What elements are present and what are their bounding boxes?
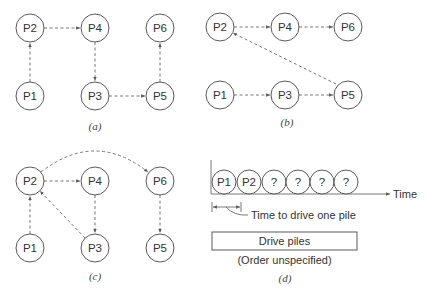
node-p1: P1 <box>16 82 44 110</box>
node-p1: P1 <box>206 81 234 109</box>
activity-box-label: Drive piles <box>259 235 311 247</box>
svg-text:P3: P3 <box>278 89 292 101</box>
svg-text:P2: P2 <box>23 175 37 187</box>
time-axis-label: Time <box>393 188 417 200</box>
svg-text:P6: P6 <box>153 22 167 34</box>
svg-text:P3: P3 <box>88 90 102 102</box>
svg-text:?: ? <box>295 176 301 188</box>
svg-text:P5: P5 <box>153 90 167 102</box>
node-p2: P2 <box>206 13 234 41</box>
svg-text:P4: P4 <box>88 175 103 187</box>
node-p3: P3 <box>81 234 109 262</box>
svg-text:P4: P4 <box>278 21 293 33</box>
svg-text:?: ? <box>271 176 277 188</box>
svg-text:?: ? <box>319 176 325 188</box>
node-p3: P3 <box>271 81 299 109</box>
node-p6: P6 <box>146 167 174 195</box>
caption-b: (b) <box>281 116 294 129</box>
node-p1: P1 <box>16 234 44 262</box>
panel-c: P2 P4 P6 P1 P3 P5 (c) <box>16 151 174 283</box>
caption-d: (d) <box>279 272 292 285</box>
svg-text:P2: P2 <box>213 21 227 33</box>
node-p4: P4 <box>271 13 299 41</box>
pile-slot-1: P1 <box>212 170 236 194</box>
node-p4: P4 <box>81 167 109 195</box>
pile-slot-3: ? <box>262 170 286 194</box>
panel-a: P2 P4 P6 P1 P3 P5 (a) <box>16 14 174 133</box>
svg-text:P5: P5 <box>341 89 355 101</box>
node-p6: P6 <box>334 13 362 41</box>
node-p5: P5 <box>334 81 362 109</box>
pile-slot-5: ? <box>310 170 334 194</box>
node-p3: P3 <box>81 82 109 110</box>
svg-text:?: ? <box>343 176 349 188</box>
pile-slot-4: ? <box>286 170 310 194</box>
pile-slot-6: ? <box>334 170 358 194</box>
svg-text:P1: P1 <box>23 242 37 254</box>
svg-text:P3: P3 <box>88 242 102 254</box>
svg-text:P5: P5 <box>153 242 167 254</box>
svg-text:P2: P2 <box>242 176 256 188</box>
svg-text:P6: P6 <box>153 175 167 187</box>
node-p4: P4 <box>81 14 109 42</box>
duration-annotation: Time to drive one pile <box>251 209 356 221</box>
edge-p3-p2 <box>40 191 85 238</box>
node-p5: P5 <box>146 234 174 262</box>
activity-note: (Order unspecified) <box>237 254 331 266</box>
svg-text:P6: P6 <box>341 21 355 33</box>
node-p6: P6 <box>146 14 174 42</box>
panel-b: P2 P4 P6 P1 P3 P5 (b) <box>206 13 362 129</box>
node-p2: P2 <box>16 14 44 42</box>
svg-text:P2: P2 <box>23 22 37 34</box>
caption-c: (c) <box>89 270 102 283</box>
caption-a: (a) <box>89 120 102 133</box>
panel-d: Time P1 P2 ? ? ? ? Time to drive one pil… <box>211 160 417 285</box>
node-p2: P2 <box>16 167 44 195</box>
svg-text:P1: P1 <box>213 89 227 101</box>
svg-text:P1: P1 <box>23 90 37 102</box>
pile-slot-2: P2 <box>237 170 261 194</box>
pile-driving-sequence-diagram: P2 P4 P6 P1 P3 P5 (a) P2 P4 P6 P1 P3 P5 … <box>0 0 427 290</box>
svg-text:P1: P1 <box>217 176 231 188</box>
node-p5: P5 <box>146 82 174 110</box>
duration-bracket <box>212 202 248 215</box>
svg-text:P4: P4 <box>88 22 103 34</box>
